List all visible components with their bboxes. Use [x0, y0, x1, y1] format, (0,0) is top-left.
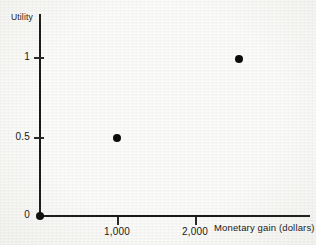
scatter-plot: Utility Monetary gain (dollars) 1 0.5 0 … — [0, 0, 316, 245]
x-axis-title: Monetary gain (dollars) — [214, 222, 315, 233]
y-tick-label-1: 1 — [4, 51, 30, 62]
data-point — [235, 55, 243, 63]
y-tick-mark-1 — [34, 57, 44, 59]
y-axis-title: Utility — [11, 12, 33, 22]
data-point — [36, 212, 44, 220]
x-tick-label-2000: 2,000 — [170, 226, 220, 237]
x-tick-mark-1000 — [117, 217, 119, 225]
x-axis-line — [39, 215, 310, 217]
x-tick-mark-2000 — [195, 217, 197, 225]
data-point — [113, 134, 121, 142]
y-axis-line — [39, 14, 41, 217]
chart-screenshot: Utility Monetary gain (dollars) 1 0.5 0 … — [0, 0, 316, 245]
x-tick-label-1000: 1,000 — [92, 226, 142, 237]
y-tick-mark-0.5 — [34, 137, 44, 139]
y-tick-label-0: 0 — [4, 209, 30, 220]
y-tick-label-0.5: 0.5 — [2, 131, 30, 142]
